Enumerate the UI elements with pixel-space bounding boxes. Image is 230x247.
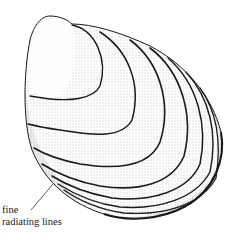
leader-line — [31, 184, 53, 210]
annotation-label-fine: fine — [2, 204, 18, 215]
shell-body — [10, 16, 230, 247]
shell-illustration — [0, 0, 230, 247]
annotation-label-radiating-lines: radiating lines — [2, 216, 62, 227]
